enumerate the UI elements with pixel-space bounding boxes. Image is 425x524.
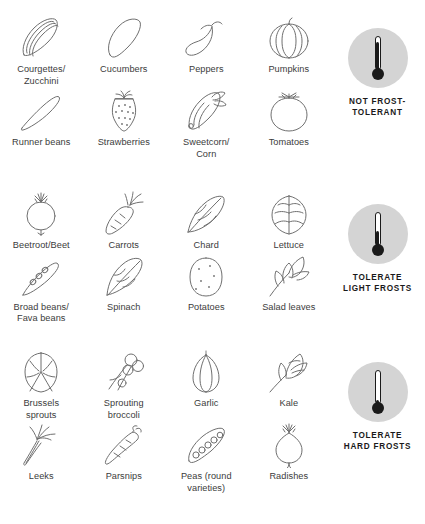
vegetable-grid: Brussels sproutsSprouting broccoliGarlic… bbox=[0, 348, 330, 494]
vegetable-label: Beetroot/Beet bbox=[13, 238, 70, 252]
thermometer-mild-icon bbox=[371, 212, 385, 256]
pumpkin-icon bbox=[253, 14, 325, 62]
vegetable-item-salad-leaves: Salad leaves bbox=[248, 252, 331, 325]
pea-pod-icon bbox=[170, 421, 242, 469]
vegetable-item-broad-beans: Broad beans/ Fava beans bbox=[0, 252, 83, 325]
vegetable-label: Peas (round varieties) bbox=[181, 469, 232, 494]
vegetable-label: Carrots bbox=[109, 238, 139, 252]
parsnip-icon bbox=[88, 421, 160, 469]
vegetable-grid: Beetroot/BeetCarrotsChardLettuceBroad be… bbox=[0, 190, 330, 325]
thermometer-cold-icon bbox=[371, 370, 385, 414]
vegetable-label: Spinach bbox=[107, 300, 141, 314]
vegetable-label: Sprouting broccoli bbox=[104, 396, 144, 421]
tomato-icon bbox=[253, 87, 325, 135]
section-tolerate-hard-frosts: Brussels sproutsSprouting broccoliGarlic… bbox=[0, 348, 425, 494]
thermometer-circle bbox=[348, 28, 408, 88]
potato-icon bbox=[170, 252, 242, 300]
vegetable-label: Brussels sprouts bbox=[23, 396, 59, 421]
strawberry-icon bbox=[88, 87, 160, 135]
runner-bean-icon bbox=[5, 87, 77, 135]
corn-icon bbox=[170, 87, 242, 135]
vegetable-item-potatoes: Potatoes bbox=[165, 252, 248, 325]
legend-label: NOT FROST- TOLERANT bbox=[349, 96, 406, 118]
courgette-icon bbox=[5, 14, 77, 62]
thermometer-bulb bbox=[372, 402, 384, 414]
legend-label: TOLERATE LIGHT FROSTS bbox=[343, 272, 412, 294]
cucumber-icon bbox=[88, 14, 160, 62]
vegetable-item-cucumbers: Cucumbers bbox=[83, 14, 166, 87]
vegetable-item-sweetcorn: Sweetcorn/ Corn bbox=[165, 87, 248, 160]
vegetable-label: Potatoes bbox=[188, 300, 225, 314]
thermometer-circle bbox=[348, 204, 408, 264]
section-not-frost-tolerant: Courgettes/ ZucchiniCucumbersPeppersPump… bbox=[0, 14, 425, 160]
vegetable-item-peas: Peas (round varieties) bbox=[165, 421, 248, 494]
vegetable-item-leeks: Leeks bbox=[0, 421, 83, 494]
broccoli-icon bbox=[88, 348, 160, 396]
broad-bean-icon bbox=[5, 252, 77, 300]
vegetable-item-courgettes-zucchini: Courgettes/ Zucchini bbox=[0, 14, 83, 87]
vegetable-label: Peppers bbox=[189, 62, 224, 76]
thermometer-hot-icon bbox=[371, 36, 385, 80]
beetroot-icon bbox=[5, 190, 77, 238]
vegetable-item-runner-beans: Runner beans bbox=[0, 87, 83, 160]
vegetable-label: Lettuce bbox=[274, 238, 305, 252]
legend-not-frost-tolerant: NOT FROST- TOLERANT bbox=[330, 14, 425, 118]
vegetable-item-kale: Kale bbox=[248, 348, 331, 421]
vegetable-label: Broad beans/ Fava beans bbox=[14, 300, 69, 325]
pepper-icon bbox=[170, 14, 242, 62]
chard-icon bbox=[170, 190, 242, 238]
carrot-icon bbox=[88, 190, 160, 238]
radish-icon bbox=[253, 421, 325, 469]
vegetable-item-pumpkins: Pumpkins bbox=[248, 14, 331, 87]
vegetable-item-beetroot-beet: Beetroot/Beet bbox=[0, 190, 83, 252]
vegetable-label: Courgettes/ Zucchini bbox=[17, 62, 65, 87]
vegetable-grid: Courgettes/ ZucchiniCucumbersPeppersPump… bbox=[0, 14, 330, 160]
vegetable-item-lettuce: Lettuce bbox=[248, 190, 331, 252]
salad-leaf-icon bbox=[253, 252, 325, 300]
vegetable-label: Kale bbox=[279, 396, 298, 410]
vegetable-item-parsnips: Parsnips bbox=[83, 421, 166, 494]
vegetable-label: Salad leaves bbox=[262, 300, 315, 314]
vegetable-label: Pumpkins bbox=[268, 62, 309, 76]
garlic-icon bbox=[170, 348, 242, 396]
vegetable-label: Tomatoes bbox=[269, 135, 309, 149]
vegetable-label: Garlic bbox=[194, 396, 218, 410]
vegetable-label: Sweetcorn/ Corn bbox=[183, 135, 229, 160]
thermometer-mercury bbox=[376, 42, 380, 71]
spinach-icon bbox=[88, 252, 160, 300]
legend-tolerate-light-frosts: TOLERATE LIGHT FROSTS bbox=[330, 190, 425, 294]
vegetable-item-spinach: Spinach bbox=[83, 252, 166, 325]
thermometer-circle bbox=[348, 362, 408, 422]
brussels-sprout-icon bbox=[5, 348, 77, 396]
vegetable-label: Runner beans bbox=[12, 135, 70, 149]
thermometer-bulb bbox=[372, 244, 384, 256]
thermometer-tube bbox=[375, 370, 381, 404]
vegetable-label: Parsnips bbox=[106, 469, 142, 483]
kale-icon bbox=[253, 348, 325, 396]
vegetable-item-brussels-sprouts: Brussels sprouts bbox=[0, 348, 83, 421]
legend-tolerate-hard-frosts: TOLERATE HARD FROSTS bbox=[330, 348, 425, 452]
vegetable-item-radishes: Radishes bbox=[248, 421, 331, 494]
lettuce-icon bbox=[253, 190, 325, 238]
legend-label: TOLERATE HARD FROSTS bbox=[344, 430, 411, 452]
vegetable-item-chard: Chard bbox=[165, 190, 248, 252]
vegetable-label: Chard bbox=[194, 238, 219, 252]
thermometer-bulb bbox=[372, 68, 384, 80]
vegetable-item-tomatoes: Tomatoes bbox=[248, 87, 331, 160]
section-tolerate-light-frosts: Beetroot/BeetCarrotsChardLettuceBroad be… bbox=[0, 190, 425, 325]
vegetable-item-garlic: Garlic bbox=[165, 348, 248, 421]
leek-icon bbox=[5, 421, 77, 469]
vegetable-item-carrots: Carrots bbox=[83, 190, 166, 252]
vegetable-label: Cucumbers bbox=[100, 62, 147, 76]
vegetable-label: Radishes bbox=[269, 469, 308, 483]
vegetable-label: Leeks bbox=[29, 469, 54, 483]
frost-tolerance-infographic: Courgettes/ ZucchiniCucumbersPeppersPump… bbox=[0, 0, 425, 524]
vegetable-label: Strawberries bbox=[98, 135, 150, 149]
vegetable-item-peppers: Peppers bbox=[165, 14, 248, 87]
vegetable-item-sprouting-broccoli: Sprouting broccoli bbox=[83, 348, 166, 421]
vegetable-item-strawberries: Strawberries bbox=[83, 87, 166, 160]
